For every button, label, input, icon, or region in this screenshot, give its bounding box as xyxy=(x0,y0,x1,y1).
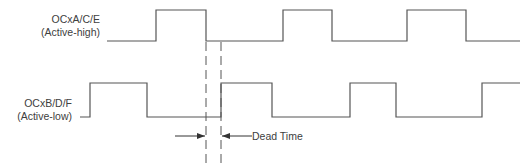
signal-b-waveform xyxy=(80,83,520,117)
dead-time-label: Dead Time xyxy=(252,130,303,143)
signal-a-waveform xyxy=(107,10,520,41)
